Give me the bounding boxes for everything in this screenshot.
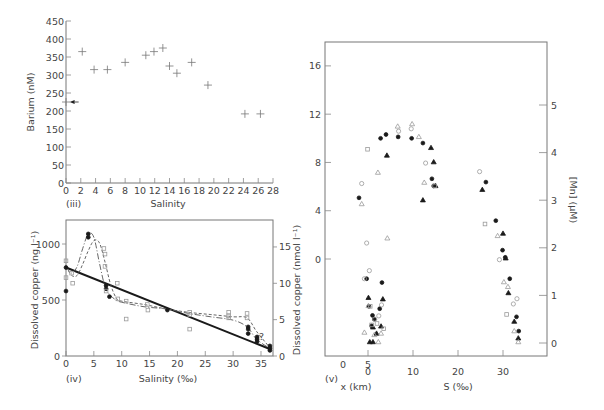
arrow-left-icon [70,100,75,104]
x-tick-label: 0 [63,185,69,196]
y-tick-label: 250 [46,88,64,99]
x-tick-label: 20 [208,185,220,196]
open-circle-marker [497,258,501,262]
filled-triangle-marker [379,324,384,328]
plus-marker [166,62,174,70]
filled-circle-marker [108,295,112,299]
y-right-tick-label: 3 [551,195,557,206]
open-triangle-marker [359,201,364,205]
y-tick-label: 400 [46,34,64,45]
x-tick-label: 24 [237,185,249,196]
km-tick-label: 5 [365,359,371,370]
barium-y-axis-title: Barium (nM) [25,73,36,132]
x-tick-label: 26 [252,185,264,196]
km-tick-label: 0 [340,359,346,370]
x-tick-label: 20 [171,358,183,369]
open-circle-marker [367,269,371,273]
copper-chart-lines [66,233,270,349]
plus-marker [78,48,86,56]
filled-circle-marker [396,135,400,139]
y-tick-label: 12 [309,109,321,120]
open-circle-marker [397,129,401,133]
filled-circle-marker [379,136,383,140]
x-tick-label: 2 [78,185,84,196]
open-circle-marker [377,314,381,318]
plus-marker [241,110,249,118]
filled-circle-marker [515,315,519,319]
open-square-marker [366,147,370,151]
panel-label-iii: (iii) [66,198,81,209]
barium-data-points [62,44,264,118]
open-triangle-marker [410,121,415,125]
open-triangle-marker [362,330,367,334]
filled-circle-marker [378,307,382,311]
y-tick-label: 16 [309,60,321,71]
open-square-marker [188,327,192,331]
plus-marker [159,44,167,52]
panel-label-iv: (iv) [66,373,82,384]
y-tick-label: 450 [46,16,64,27]
y-tick-label: 0 [315,254,321,265]
open-square-marker [245,312,249,316]
x-tick-label: 28 [267,185,279,196]
open-square-marker [375,322,379,326]
y-right-tick-label: 1 [551,290,557,301]
y-right-tick-label: 5 [279,314,285,325]
manganese-x-axis-title-salinity: S (‰) [443,381,472,392]
filled-triangle-marker [501,231,506,235]
open-triangle-marker [375,170,380,174]
barium-axis-lines [66,21,273,183]
copper-y-axis-title-left: Dissolved copper (ng l⁻¹) [29,231,40,350]
filled-circle-marker [430,177,434,181]
y-right-tick-label: 4 [551,147,557,158]
y-tick-label: 8 [315,157,321,168]
manganese-data-points [357,121,521,343]
filled-triangle-marker [366,295,371,299]
filled-circle-marker [371,313,375,317]
short-dash-curve [66,240,269,347]
open-circle-marker [511,302,515,306]
long-dash-curve [66,233,269,348]
open-triangle-marker [512,329,517,333]
filled-circle-marker [64,289,68,293]
x-tick-label: 12 [149,185,161,196]
filled-circle-marker [357,196,361,200]
x-tick-label: 25 [199,358,211,369]
y-tick-label: 350 [46,52,64,63]
filled-triangle-marker [480,187,485,191]
x-tick-label: 30 [497,366,509,377]
filled-circle-marker [508,277,512,281]
filled-circle-marker [64,266,68,270]
barium-chart-axes: 0501001502002503003504004500246810121416… [46,16,279,197]
copper-question-mark: ? [259,331,264,342]
open-square-marker [71,281,75,285]
y-right-tick-label: 10 [279,278,291,289]
filled-triangle-marker [512,319,517,323]
open-circle-marker [515,297,519,301]
x-tick-label: 5 [91,358,97,369]
plus-marker [90,66,98,74]
y-tick-label: 50 [52,160,64,171]
filled-triangle-marker [431,160,436,164]
open-triangle-marker [376,339,381,343]
x-tick-label: 35 [255,358,267,369]
y-tick-label: 150 [46,124,64,135]
manganese-chart-axes: 0481216012345010203005 [309,42,557,377]
x-tick-label: 14 [163,185,175,196]
plus-marker [188,58,196,66]
y-tick-label: 300 [46,70,64,81]
filled-triangle-marker [429,145,434,149]
open-triangle-marker [501,279,506,283]
x-tick-label: 15 [144,358,156,369]
open-circle-marker [360,181,364,185]
filled-circle-marker [494,219,498,223]
panel-label-v: (v) [325,373,338,384]
copper-plot-frame [66,220,273,356]
plus-marker [173,69,181,77]
open-circle-marker [365,241,369,245]
barium-vs-salinity-chart: 0501001502002503003504004500246810121416… [25,16,279,210]
copper-vs-salinity-chart: 0500100005101505101520253035 Dissolved c… [29,220,302,384]
copper-data-points [64,232,272,352]
manganese-y-axis-title-right: [Mn] (µM) [568,177,579,223]
y-tick-label: 100 [46,142,64,153]
